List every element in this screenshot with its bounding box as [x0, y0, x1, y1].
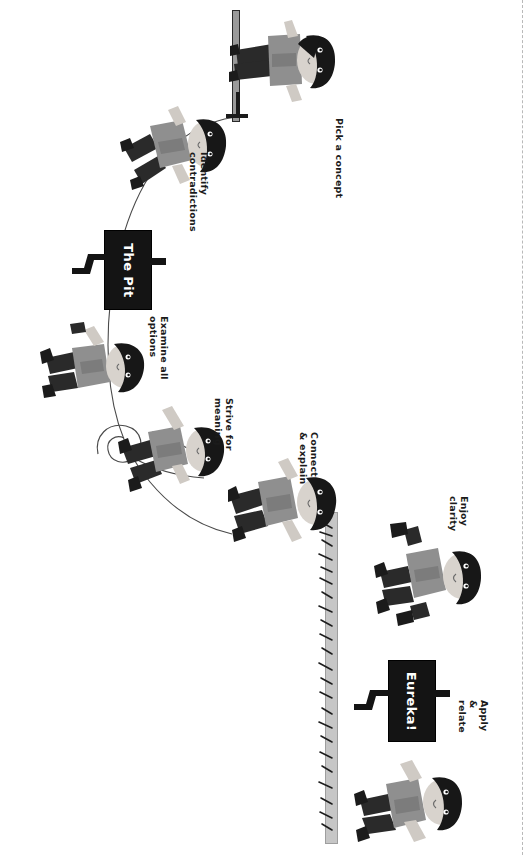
eureka-sign-text: Eureka! — [405, 671, 420, 731]
stage-label-enjoy-clarity: Enjoy clarity — [448, 496, 470, 557]
eureka-sign-post — [344, 682, 398, 728]
eureka-sign-nub — [430, 684, 454, 702]
the-pit-sign-nub — [146, 252, 170, 270]
stage-label-strive-for-meaning: Strive for meaning — [213, 398, 235, 451]
grass-tufts — [316, 520, 338, 840]
figure-pick-a-concept — [228, 14, 336, 124]
the-pit-sign-text: The Pit — [121, 243, 136, 297]
stage-label-examine-all-options: Examine all options — [148, 316, 170, 380]
stage-label-pick-a-concept: Pick a concept — [334, 118, 345, 198]
stage-label-apply-relate: Apply & relate — [456, 700, 490, 741]
stage-label-identify-contradictions: Identify contradictions — [188, 152, 210, 232]
stage-label-connect-explain: Connect & explain — [298, 432, 320, 484]
pit-path-curve — [0, 0, 531, 855]
figure-apply-relate — [352, 756, 464, 855]
the-pit-sign-post — [60, 246, 116, 294]
figure-strive-for-meaning — [118, 400, 228, 504]
figure-connect-explain — [228, 452, 338, 560]
learning-pit-illustration: Pick a concept Identify contradictions — [0, 0, 531, 855]
figure-identify-contradictions — [120, 96, 230, 201]
